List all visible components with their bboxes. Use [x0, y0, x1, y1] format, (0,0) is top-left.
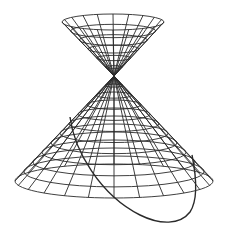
generator-line — [114, 76, 184, 169]
generator-line — [88, 76, 114, 197]
cone-svg — [0, 0, 229, 230]
generator-line — [114, 76, 164, 196]
generator-line — [114, 76, 140, 197]
generator-line — [114, 17, 154, 76]
generator-line — [114, 24, 162, 76]
upper-nappe-wireframe — [62, 14, 164, 76]
lower-nappe-wireframe — [15, 76, 213, 198]
generator-line — [65, 76, 115, 196]
apex-point — [113, 75, 115, 77]
generator-line — [44, 76, 114, 169]
generator-line — [72, 17, 114, 76]
generator-line — [113, 14, 114, 76]
double-cone-diagram: Wireframe double cone (two nappes) inter… — [0, 0, 229, 230]
